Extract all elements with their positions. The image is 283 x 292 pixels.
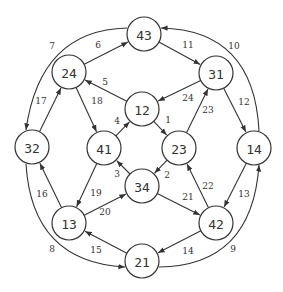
node-21: 21	[125, 244, 159, 278]
edge-label: 23	[202, 105, 214, 115]
edge-label: 21	[182, 192, 193, 202]
edge-32-to-24	[40, 88, 62, 132]
edge-24-to-43	[84, 42, 128, 64]
edge-13-to-32	[40, 163, 62, 208]
edge-label: 14	[182, 246, 194, 256]
edge-label: 5	[102, 77, 108, 87]
edge-label: 19	[90, 188, 102, 198]
node-43: 43	[127, 17, 161, 51]
node-label: 41	[96, 142, 112, 157]
node-label: 34	[134, 180, 150, 195]
node-13: 13	[52, 206, 86, 240]
edge-41-to-13	[77, 163, 97, 206]
edge-43-to-31	[159, 42, 200, 64]
node-label: 14	[246, 142, 262, 157]
edge-label: 8	[49, 244, 55, 254]
edge-label: 2	[164, 170, 170, 180]
edge-label: 20	[99, 207, 111, 217]
node-12: 12	[125, 92, 159, 126]
node-label: 43	[136, 28, 152, 43]
edge-42-to-21	[158, 231, 201, 253]
edge-label: 10	[228, 41, 240, 51]
graph-diagram: 123456789101112131415161718192021222324 …	[0, 0, 283, 292]
edge-label: 15	[90, 245, 102, 255]
edge-label: 13	[238, 189, 250, 199]
edge-14-to-42	[224, 163, 246, 207]
edge-label: 22	[202, 181, 213, 191]
edge-label: 12	[238, 97, 249, 107]
edge-label: 3	[114, 169, 120, 179]
edge-label: 16	[36, 189, 48, 199]
edge-label: 7	[49, 41, 55, 51]
node-32: 32	[15, 130, 49, 164]
node-label: 24	[61, 66, 77, 81]
edge-31-to-14	[224, 88, 246, 132]
node-label: 42	[208, 217, 224, 232]
node-41: 41	[87, 131, 121, 165]
edge-24-to-41	[76, 87, 96, 131]
edge-label: 17	[35, 96, 47, 106]
node-42: 42	[199, 206, 233, 240]
edge-label: 18	[91, 96, 103, 106]
node-label: 31	[208, 67, 224, 82]
node-23: 23	[162, 131, 196, 165]
node-label: 13	[61, 217, 77, 232]
edge-label: 6	[95, 40, 101, 50]
node-label: 12	[134, 103, 150, 118]
node-14: 14	[237, 131, 271, 165]
node-24: 24	[52, 55, 86, 89]
node-label: 32	[24, 141, 40, 156]
edge-label: 9	[230, 244, 236, 254]
edge-31-to-12	[158, 80, 201, 101]
edge-label: 1	[165, 115, 171, 125]
node-31: 31	[199, 56, 233, 90]
node-34: 34	[125, 169, 159, 203]
node-label: 21	[134, 255, 150, 270]
edge-label: 11	[182, 40, 193, 50]
node-label: 23	[171, 142, 187, 157]
edge-label: 24	[182, 93, 194, 103]
edge-label: 4	[114, 116, 120, 126]
